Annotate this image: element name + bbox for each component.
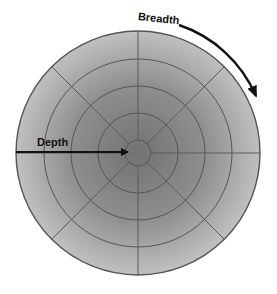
depth-label: Depth	[37, 137, 68, 148]
depth-breadth-diagram: Depth Breadth	[0, 0, 277, 294]
